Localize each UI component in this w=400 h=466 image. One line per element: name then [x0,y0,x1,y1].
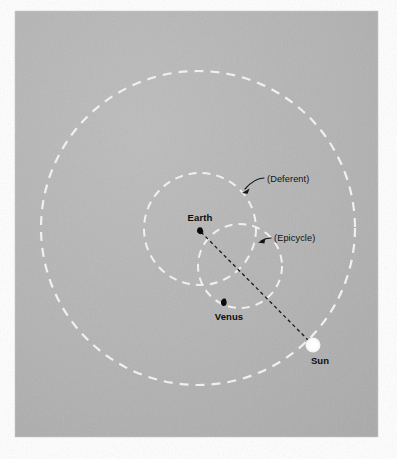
epicycle-annotation-label: (Epicycle) [274,233,315,243]
earth-label: Earth [188,212,213,223]
diagram-plate [15,11,378,437]
sun-label: Sun [311,355,329,366]
deferent-annotation-label: (Deferent) [267,174,309,184]
sun-disc [306,338,321,353]
body-sun [306,338,321,353]
venus-label: Venus [215,311,244,322]
figure-root: (Deferent) (Epicycle) Earth Venus Sun [0,0,400,466]
epicycle-diagram: (Deferent) (Epicycle) Earth Venus Sun [0,0,400,466]
